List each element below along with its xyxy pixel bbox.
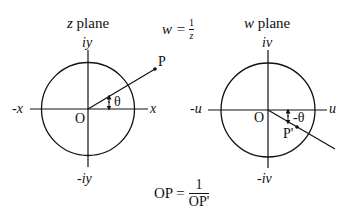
distance-denominator: OP' — [189, 195, 209, 209]
distance-formula: OP = 1 OP' — [154, 178, 209, 209]
z-axis-label-neg-x: -x — [12, 102, 23, 116]
distance-numerator: 1 — [196, 178, 203, 192]
w-angle-neg-theta-label: -θ — [293, 111, 304, 125]
mapping-fraction: 1 z — [189, 18, 194, 41]
w-axis-label-neg-u: -u — [190, 102, 202, 116]
w-plane-diagram — [208, 50, 335, 168]
point-p-dot — [153, 67, 157, 71]
w-axis-label-neg-iv: -iv — [257, 172, 272, 186]
distance-formula-lhs: OP = — [154, 186, 185, 201]
w-plane-title: w plane — [244, 16, 290, 31]
point-p-prime-dot — [295, 125, 299, 129]
z-ray-op — [88, 69, 155, 109]
mapping-formula: w = 1 z — [162, 18, 194, 41]
point-p-prime-label: P' — [283, 127, 293, 141]
z-plane-var: z — [67, 15, 73, 31]
z-origin-label: O — [75, 112, 85, 126]
w-plane-word: plane — [258, 15, 290, 31]
w-axis-label-u: u — [329, 102, 336, 116]
z-axis-label-iy: iy — [82, 36, 92, 50]
z-axis-label-neg-iy: -iy — [77, 172, 92, 186]
z-plane-word: plane — [77, 15, 109, 31]
z-plane-title: z plane — [67, 16, 109, 31]
z-axis-label-x: x — [150, 102, 156, 116]
w-origin-label: O — [254, 111, 264, 125]
distance-fraction: 1 OP' — [189, 178, 209, 209]
mapping-numerator: 1 — [189, 18, 194, 28]
point-p-label: P — [158, 55, 166, 69]
mapping-formula-lhs: w = — [162, 22, 186, 37]
w-plane-var: w — [244, 15, 254, 31]
w-axis-label-iv: iv — [262, 36, 272, 50]
z-plane-diagram — [30, 50, 157, 167]
z-angle-theta-label: θ — [114, 95, 121, 109]
mapping-denominator: z — [189, 31, 193, 41]
